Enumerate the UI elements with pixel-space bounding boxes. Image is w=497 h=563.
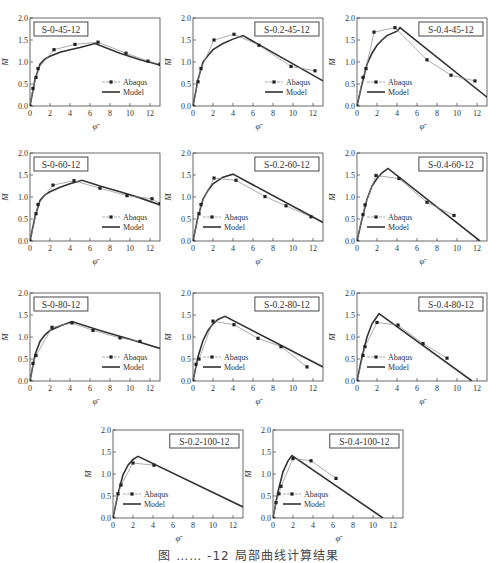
svg-text:Abaqus: Abaqus <box>123 353 147 362</box>
svg-text:1.0: 1.0 <box>181 58 191 67</box>
svg-text:S-0.2-100-12: S-0.2-100-12 <box>179 437 230 447</box>
svg-text:4: 4 <box>231 244 235 253</box>
svg-text:Abaqus: Abaqus <box>123 213 147 222</box>
svg-text:φ̄: φ̄ <box>420 121 428 131</box>
svg-text:M̄: M̄ <box>163 333 173 342</box>
svg-text:2: 2 <box>211 109 215 118</box>
svg-text:12: 12 <box>309 109 317 118</box>
svg-text:0: 0 <box>28 384 32 393</box>
svg-text:M̄: M̄ <box>327 333 337 342</box>
svg-text:Abaqus: Abaqus <box>123 78 147 87</box>
svg-text:2: 2 <box>375 244 379 253</box>
svg-text:8: 8 <box>271 109 275 118</box>
svg-text:8: 8 <box>435 109 439 118</box>
svg-text:0.5: 0.5 <box>18 355 28 364</box>
svg-text:Model: Model <box>286 88 308 97</box>
svg-text:6: 6 <box>88 384 92 393</box>
chart-panel-S-0.4-60-12: 0246810120.00.51.01.52.0φ̄M̄S-0.4-60-12A… <box>327 143 492 272</box>
chart-panel-S-0.4-100-12: 0246810120.00.51.01.52.0φ̄M̄S-0.4-100-12… <box>243 420 408 549</box>
svg-text:8: 8 <box>435 384 439 393</box>
svg-text:2: 2 <box>211 244 215 253</box>
svg-text:10: 10 <box>453 109 461 118</box>
svg-text:0.0: 0.0 <box>181 237 191 246</box>
svg-text:Model: Model <box>144 500 166 509</box>
svg-text:10: 10 <box>289 384 297 393</box>
svg-text:2.0: 2.0 <box>261 426 271 435</box>
svg-text:12: 12 <box>146 109 154 118</box>
svg-text:2: 2 <box>291 521 295 530</box>
svg-text:0.0: 0.0 <box>181 102 191 111</box>
chart-panel-S-0-45-12: 0246810120.00.51.01.52.0φ̄M̄S-0-45-12Aba… <box>0 8 165 137</box>
svg-text:Abaqus: Abaqus <box>388 353 412 362</box>
svg-text:1.5: 1.5 <box>18 171 28 180</box>
svg-text:4: 4 <box>395 109 399 118</box>
svg-text:12: 12 <box>229 521 237 530</box>
svg-text:S-0.2-80-12: S-0.2-80-12 <box>264 300 310 310</box>
svg-text:φ̄: φ̄ <box>420 256 428 266</box>
svg-text:0: 0 <box>191 109 195 118</box>
svg-text:0.0: 0.0 <box>18 377 28 386</box>
svg-text:4: 4 <box>395 244 399 253</box>
svg-text:Model: Model <box>388 223 410 232</box>
svg-text:Model: Model <box>123 223 145 232</box>
svg-text:0.0: 0.0 <box>181 377 191 386</box>
svg-text:φ̄: φ̄ <box>176 533 184 543</box>
svg-text:1.5: 1.5 <box>18 36 28 45</box>
svg-text:6: 6 <box>171 521 175 530</box>
svg-text:0.5: 0.5 <box>18 215 28 224</box>
svg-text:1.0: 1.0 <box>18 333 28 342</box>
svg-text:4: 4 <box>68 109 72 118</box>
svg-text:S-0-45-12: S-0-45-12 <box>42 25 81 35</box>
svg-text:0: 0 <box>191 384 195 393</box>
svg-text:10: 10 <box>453 384 461 393</box>
svg-text:0.5: 0.5 <box>181 80 191 89</box>
svg-text:1.5: 1.5 <box>181 171 191 180</box>
svg-text:2.0: 2.0 <box>101 426 111 435</box>
svg-text:1.5: 1.5 <box>345 311 355 320</box>
svg-text:Abaqus: Abaqus <box>388 78 412 87</box>
svg-text:M̄: M̄ <box>83 470 93 479</box>
svg-text:6: 6 <box>88 109 92 118</box>
chart-panel-S-0.4-80-12: 0246810120.00.51.01.52.0φ̄M̄S-0.4-80-12A… <box>327 283 492 412</box>
svg-text:Model: Model <box>304 500 326 509</box>
svg-text:φ̄: φ̄ <box>420 396 428 406</box>
svg-text:1.0: 1.0 <box>181 193 191 202</box>
svg-text:8: 8 <box>191 521 195 530</box>
svg-text:Model: Model <box>123 88 145 97</box>
svg-text:2.0: 2.0 <box>345 14 355 23</box>
svg-text:1.5: 1.5 <box>101 448 111 457</box>
svg-text:4: 4 <box>68 384 72 393</box>
svg-text:0: 0 <box>355 244 359 253</box>
svg-text:8: 8 <box>435 244 439 253</box>
svg-text:2: 2 <box>48 384 52 393</box>
svg-text:0: 0 <box>191 244 195 253</box>
svg-text:2.0: 2.0 <box>345 289 355 298</box>
svg-text:6: 6 <box>88 244 92 253</box>
svg-text:10: 10 <box>289 244 297 253</box>
svg-text:0.0: 0.0 <box>101 514 111 523</box>
svg-text:0.0: 0.0 <box>18 237 28 246</box>
svg-text:M̄: M̄ <box>327 193 337 202</box>
chart-panel-S-0-80-12: 0246810120.00.51.01.52.0φ̄M̄S-0-80-12Aba… <box>0 283 165 412</box>
svg-text:1.0: 1.0 <box>18 58 28 67</box>
svg-text:6: 6 <box>251 244 255 253</box>
svg-text:12: 12 <box>473 244 481 253</box>
svg-text:8: 8 <box>108 244 112 253</box>
svg-text:4: 4 <box>231 384 235 393</box>
svg-text:0.5: 0.5 <box>101 492 111 501</box>
svg-text:2.0: 2.0 <box>181 289 191 298</box>
svg-text:0.5: 0.5 <box>345 80 355 89</box>
svg-text:φ̄: φ̄ <box>336 533 344 543</box>
figure-caption: 图 …… -12 局部曲线计算结果 <box>0 546 497 563</box>
svg-text:Abaqus: Abaqus <box>224 353 248 362</box>
svg-text:1.5: 1.5 <box>181 311 191 320</box>
svg-text:M̄: M̄ <box>0 58 10 67</box>
svg-text:0.5: 0.5 <box>261 492 271 501</box>
svg-text:1.0: 1.0 <box>181 333 191 342</box>
svg-text:12: 12 <box>146 244 154 253</box>
svg-text:6: 6 <box>415 384 419 393</box>
svg-text:2.0: 2.0 <box>345 149 355 158</box>
svg-text:1.5: 1.5 <box>261 448 271 457</box>
svg-text:6: 6 <box>251 109 255 118</box>
svg-text:Abaqus: Abaqus <box>144 490 168 499</box>
